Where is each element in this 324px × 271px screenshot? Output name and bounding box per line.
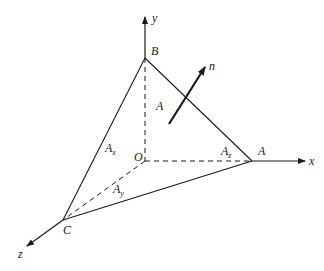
face-x-label: Ax — [104, 141, 116, 157]
z-axis-label: z — [17, 247, 23, 261]
edge-oc-dashed — [63, 161, 145, 220]
z-axis — [27, 220, 63, 246]
face-z-label: Az — [220, 144, 232, 160]
edge-bc — [63, 58, 145, 220]
vertex-c-label: C — [63, 223, 72, 237]
tetrahedron-diagram: y x z B A C O n A Ax Az Ay — [0, 0, 324, 271]
x-axis-label: x — [308, 154, 315, 168]
edge-ca — [63, 161, 252, 220]
y-axis-label: y — [151, 11, 158, 25]
vertex-origin-label: O — [134, 150, 143, 164]
face-main-label: A — [155, 99, 164, 113]
vertex-a-label: A — [257, 144, 266, 158]
normal-vector-label: n — [209, 59, 215, 73]
vertex-b-label: B — [151, 44, 159, 58]
normal-vector-arrow — [169, 67, 205, 124]
face-y-label: Ay — [112, 182, 124, 198]
